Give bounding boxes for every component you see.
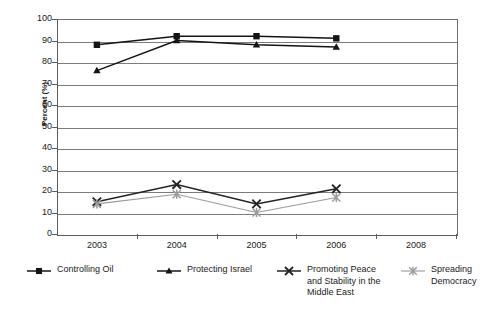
legend-key-asterisk-icon [400,265,426,277]
x-tick-label: 2006 [306,240,366,250]
series-layer [57,19,456,234]
y-tick-label: 80 [22,57,52,66]
y-tick-label: 0 [22,229,52,238]
y-tick-label: 20 [22,186,52,195]
legend-label-3: Spreading Democracy [431,264,477,287]
x-tick-label: 2008 [386,240,446,250]
legend-label-0: Controlling Oil [57,264,114,276]
data-point-marker-filled-square [36,268,42,274]
y-tick-label: 70 [22,79,52,88]
legend-item-0[interactable]: Controlling Oil [26,264,114,277]
legend-item-2[interactable]: Promoting Peace and Stability in the Mid… [276,264,396,299]
y-tick-label: 10 [22,208,52,217]
y-tick-label: 90 [22,36,52,45]
legend-item-3[interactable]: Spreading Democracy [400,264,481,287]
series-line [97,194,336,212]
chart-legend: Controlling OilProtecting IsraelPromotin… [26,262,466,312]
data-point-marker-filled-square [253,33,259,39]
x-tick-label: 2004 [147,240,207,250]
legend-label-1: Protecting Israel [187,264,252,276]
series-line [97,36,336,45]
y-tick-label: 30 [22,165,52,174]
y-tick-label: 60 [22,100,52,109]
legend-key-filled-triangle-icon [156,265,182,277]
series-line [97,41,336,71]
y-tick-label: 40 [22,143,52,152]
y-tick-label: 50 [22,122,52,131]
series-line [97,185,336,204]
y-tick-label: 100 [22,14,52,23]
legend-key-filled-square-icon [26,265,52,277]
data-point-marker-filled-square [333,35,339,41]
data-point-marker-filled-square [94,42,100,48]
legend-item-1[interactable]: Protecting Israel [156,264,252,277]
legend-key-cross-x-icon [276,265,302,277]
legend-label-2: Promoting Peace and Stability in the Mid… [307,264,381,299]
x-tick-label: 2003 [67,240,127,250]
x-tick-label: 2005 [227,240,287,250]
series-1 [93,37,340,74]
chart-title [0,0,474,5]
